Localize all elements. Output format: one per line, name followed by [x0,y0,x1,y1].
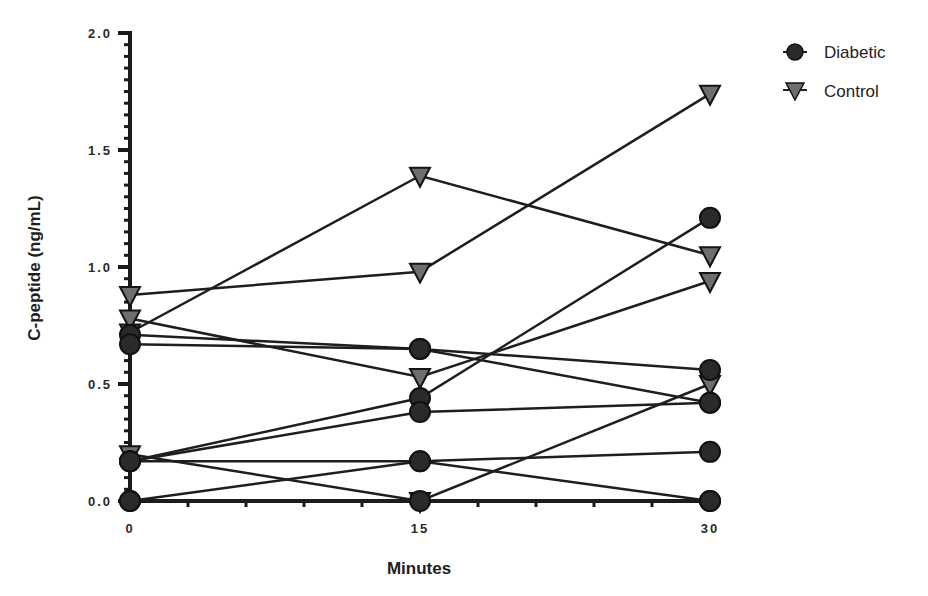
diabetic-circle-marker [700,442,720,462]
control-triangle-marker [700,247,720,266]
y-tick-label: 0.0 [88,494,112,509]
x-tick-label: 0 [125,521,134,536]
diabetic-circle-marker [410,451,430,471]
legend: Diabetic Control [783,43,886,101]
axes: 0.00.51.01.52.001530 [88,26,719,536]
diabetic-circle-marker [700,491,720,511]
diabetic-circle-marker [410,491,430,511]
x-tick-label: 15 [411,521,429,536]
control-triangle-marker [120,287,140,306]
triangle-marker-icon [786,83,804,100]
legend-label-diabetic: Diabetic [824,43,886,62]
legend-label-control: Control [824,82,879,101]
diabetic-circle-marker [700,360,720,380]
diabetic-circle-marker [700,393,720,413]
chart: 0.00.51.01.52.001530 Minutes C-peptide (… [0,0,928,596]
diabetic-circle-marker [120,334,140,354]
diabetic-circle-marker [700,208,720,228]
circle-marker-icon [787,44,803,60]
diabetic-circle-marker [410,402,430,422]
x-axis-title: Minutes [387,559,451,578]
y-axis-title: C-peptide (ng/mL) [25,195,44,340]
control-triangle-marker [700,86,720,105]
diabetic-circle-marker [410,339,430,359]
x-tick-label: 30 [701,521,719,536]
diabetic-circle-marker [120,491,140,511]
y-tick-label: 1.5 [88,143,112,158]
data-lines [130,94,710,501]
y-tick-label: 0.5 [88,377,112,392]
legend-item-diabetic: Diabetic [783,43,886,62]
y-tick-label: 1.0 [88,260,112,275]
y-tick-label: 2.0 [88,26,112,41]
control-triangle-marker [410,369,430,388]
legend-item-control: Control [783,82,879,101]
diabetic-circle-marker [120,451,140,471]
